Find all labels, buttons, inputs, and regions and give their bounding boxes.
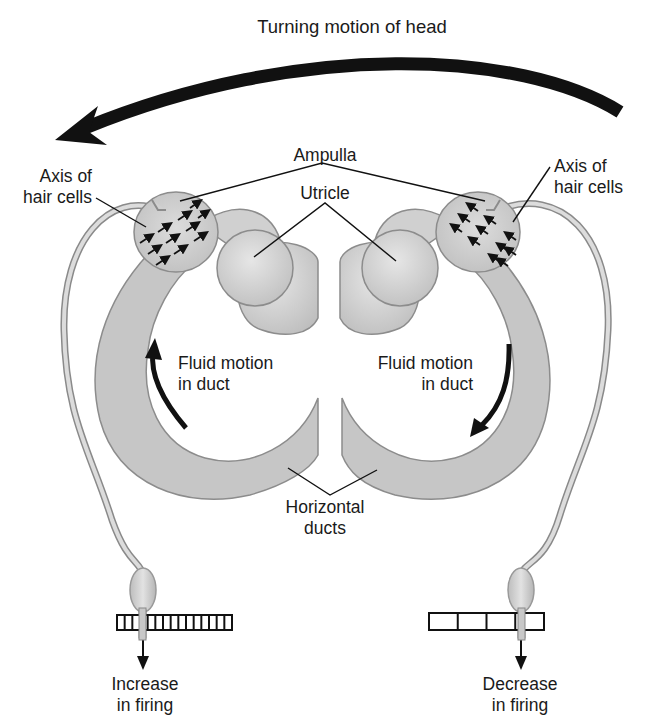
label-line: Axis of — [554, 156, 644, 177]
label-increase-in-firing: Increase in firing — [95, 674, 195, 716]
label-line: Axis of — [10, 166, 92, 187]
diagram-canvas — [0, 0, 645, 726]
label-fluid-motion-right: Fluid motion in duct — [360, 353, 473, 395]
label-line: Fluid motion — [178, 353, 288, 374]
label-line: hair cells — [554, 177, 644, 198]
right-ampulla — [436, 192, 520, 272]
label-line: in firing — [95, 695, 195, 716]
left-ampulla — [134, 192, 218, 272]
right-axon-segment — [518, 608, 525, 640]
label-line: Fluid motion — [360, 353, 473, 374]
vestibular-diagram: Turning motion of head Ampulla Utricle A… — [0, 0, 645, 726]
label-line: in firing — [470, 695, 570, 716]
label-axis-hair-cells-right: Axis of hair cells — [554, 156, 644, 198]
label-line: in duct — [360, 374, 473, 395]
label-line: ducts — [270, 518, 380, 539]
label-decrease-in-firing: Decrease in firing — [470, 674, 570, 716]
label-line: Decrease — [470, 674, 570, 695]
label-horizontal-ducts: Horizontal ducts — [270, 497, 380, 539]
label-axis-hair-cells-left: Axis of hair cells — [10, 166, 92, 208]
spike-train-increase — [117, 615, 232, 670]
diagram-title: Turning motion of head — [222, 16, 482, 37]
spike-train-decrease — [429, 613, 544, 670]
label-line: hair cells — [10, 187, 92, 208]
label-fluid-motion-left: Fluid motion in duct — [178, 353, 288, 395]
label-line: Increase — [95, 674, 195, 695]
label-line: in duct — [178, 374, 288, 395]
left-axon-segment — [139, 608, 146, 640]
turning-arrow-icon — [55, 64, 620, 145]
label-line: Horizontal — [270, 497, 380, 518]
label-ampulla: Ampulla — [270, 145, 380, 166]
label-utricle: Utricle — [270, 183, 380, 204]
